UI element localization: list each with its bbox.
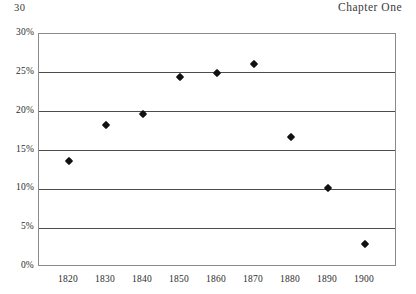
data-point-marker (250, 59, 258, 67)
data-point-marker (213, 69, 221, 77)
y-axis-tick-label: 10% (2, 182, 34, 192)
x-axis-tick-label: 1860 (196, 274, 236, 284)
x-axis-tick-label: 1870 (233, 274, 273, 284)
y-axis-tick-label: 0% (2, 260, 34, 270)
y-axis-tick-label: 5% (2, 221, 34, 231)
x-axis-tick-label: 1840 (122, 274, 162, 284)
scatter-chart-figure: 0%5%10%15%20%25%30%182018301840185018601… (0, 0, 416, 294)
x-axis-tick-label: 1850 (159, 274, 199, 284)
gridline (39, 150, 395, 151)
x-axis-tick-label: 1830 (85, 274, 125, 284)
gridline (39, 111, 395, 112)
data-point-marker (102, 121, 110, 129)
x-axis-tick-label: 1890 (307, 274, 347, 284)
data-point-marker (176, 73, 184, 81)
x-axis-tick-label: 1880 (270, 274, 310, 284)
plot-area (38, 33, 396, 266)
x-axis-tick-label: 1820 (48, 274, 88, 284)
data-point-marker (324, 184, 332, 192)
y-axis-tick-label: 30% (2, 27, 34, 37)
data-point-marker (361, 239, 369, 247)
y-axis-tick-label: 25% (2, 66, 34, 76)
data-point-marker (287, 132, 295, 140)
gridline (39, 189, 395, 190)
y-axis-tick-label: 15% (2, 144, 34, 154)
x-axis-tick-label: 1900 (344, 274, 384, 284)
data-point-marker (65, 156, 73, 164)
gridline (39, 228, 395, 229)
y-axis-tick-label: 20% (2, 105, 34, 115)
